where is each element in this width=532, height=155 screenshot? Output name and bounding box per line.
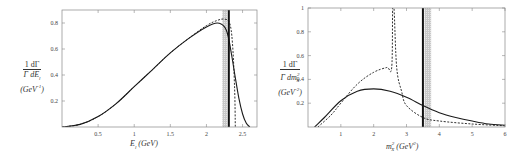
- x-tick-label: 0.5: [94, 131, 102, 137]
- ylabel-denominator: Γ dm2X: [280, 70, 301, 85]
- x-tick-label: 2.5: [239, 131, 247, 137]
- ylabel-unit: (GeV-2): [278, 88, 302, 97]
- series-solid: [62, 23, 250, 127]
- y-tick-label: 0.8: [51, 20, 59, 26]
- x-tick-label: 1.5: [167, 131, 175, 137]
- x-tick-label: 6: [504, 131, 507, 137]
- x-tick-label: 3: [405, 131, 408, 137]
- y-tick-label: 0.2: [297, 100, 305, 106]
- lepton-energy-spectrum-chart: 0.511.522.50.20.40.60.8 1 dΓ Γ dEl (GeV-…: [0, 0, 266, 155]
- plot-frame: [62, 10, 257, 127]
- x-tick-label: 4: [438, 131, 441, 137]
- x-axis-label-right: m2X (GeV2): [386, 139, 476, 154]
- x-tick-label: 1: [339, 131, 342, 137]
- ylabel-numerator: 1 dΓ: [23, 60, 42, 70]
- plot-frame: [308, 8, 505, 127]
- x-tick-label: 2: [205, 131, 208, 137]
- ylabel-denominator: Γ dEl: [23, 70, 42, 83]
- hadronic-mass-spectrum-chart: 1234560.20.40.60.81 1 dΓ Γ dm2X (GeV-2) …: [266, 0, 532, 155]
- x-tick-label: 5: [471, 131, 474, 137]
- ylabel-unit: (GeV-1): [20, 85, 44, 94]
- y-tick-label: 0.6: [297, 53, 305, 59]
- y-tick-label: 0.2: [51, 98, 59, 104]
- x-tick-label: 2: [372, 131, 375, 137]
- y-axis-label-left: 1 dΓ Γ dEl (GeV-1): [4, 60, 60, 94]
- series-solid: [315, 89, 505, 127]
- y-axis-label-right: 1 dΓ Γ dm2X (GeV-2): [266, 60, 314, 97]
- ylabel-numerator: 1 dΓ: [280, 60, 301, 70]
- x-axis-label-left: El (GeV): [130, 139, 210, 152]
- y-tick-label: 0.6: [51, 46, 59, 52]
- series-dashed: [318, 1, 505, 127]
- x-tick-label: 1: [133, 131, 136, 137]
- y-tick-label: 1: [301, 5, 304, 11]
- y-tick-label: 0.8: [297, 29, 305, 35]
